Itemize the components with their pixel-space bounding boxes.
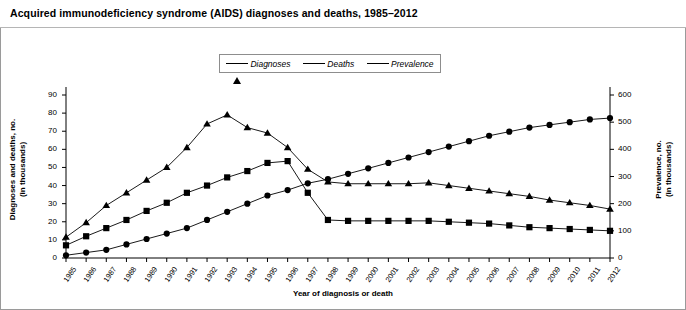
square-marker-icon: [607, 228, 613, 234]
y-axis-right-tick-label: 300: [618, 172, 642, 181]
circle-marker-icon: [164, 230, 170, 236]
y-axis-right-tick-label: 200: [618, 199, 642, 208]
y-axis-left-tick-label: 60: [35, 144, 57, 153]
square-marker-icon: [486, 220, 492, 226]
circle-marker-icon: [103, 247, 109, 253]
y-axis-right-tick-label: 600: [618, 90, 642, 99]
square-marker-icon: [224, 174, 230, 180]
circle-marker-icon: [526, 125, 532, 131]
y-axis-left-tick-label: 20: [35, 217, 57, 226]
triangle-marker-icon: [82, 219, 90, 225]
square-marker-icon: [184, 190, 190, 196]
circle-marker-icon: [365, 165, 371, 171]
square-marker-icon: [305, 190, 311, 196]
circle-marker-icon: [486, 133, 492, 139]
triangle-marker-icon: [364, 180, 372, 186]
y-axis-right-tick-label: 0: [618, 253, 642, 262]
square-marker-icon: [466, 220, 472, 226]
y-axis-left-tick-label: 90: [35, 90, 57, 99]
y-axis-left-tick-label: 10: [35, 235, 57, 244]
square-marker-icon: [385, 218, 391, 224]
triangle-marker-icon: [284, 144, 292, 150]
y-axis-left-tick-label: 40: [35, 181, 57, 190]
y-axis-left-title-line1: Diagnoses and deaths, no.: [8, 110, 18, 230]
triangle-marker-icon: [223, 111, 231, 117]
square-marker-icon: [526, 224, 532, 230]
square-marker-icon: [446, 219, 452, 225]
triangle-marker-icon: [143, 176, 151, 182]
y-axis-right-tick-label: 400: [618, 144, 642, 153]
square-marker-icon: [506, 222, 512, 228]
square-marker-icon: [103, 225, 109, 231]
y-axis-right-title-line1: Prevalence, no.: [654, 110, 664, 230]
square-marker-icon: [365, 218, 371, 224]
square-marker-icon: [204, 182, 210, 188]
y-axis-left-title-line2: (in thousands): [17, 110, 27, 230]
circle-marker-icon: [83, 249, 89, 255]
y-axis-left-tick-label: 70: [35, 126, 57, 135]
circle-marker-icon: [546, 122, 552, 128]
square-marker-icon: [405, 218, 411, 224]
square-marker-icon: [63, 242, 69, 248]
circle-marker-icon: [325, 176, 331, 182]
square-marker-icon: [426, 218, 432, 224]
triangle-marker-icon: [123, 189, 131, 195]
square-marker-icon: [83, 233, 89, 239]
triangle-marker-icon: [62, 233, 70, 239]
square-marker-icon: [123, 217, 129, 223]
circle-marker-icon: [345, 171, 351, 177]
square-marker-icon: [143, 208, 149, 214]
square-marker-icon: [285, 158, 291, 164]
circle-marker-icon: [466, 138, 472, 144]
y-axis-right-tick-label: 100: [618, 226, 642, 235]
y-axis-left-title: Diagnoses and deaths, no. (in thousands): [8, 110, 27, 230]
series-line-prevalence: [66, 118, 610, 255]
circle-marker-icon: [607, 115, 613, 121]
square-marker-icon: [244, 168, 250, 174]
triangle-marker-icon: [385, 180, 393, 186]
circle-marker-icon: [264, 192, 270, 198]
circle-marker-icon: [244, 201, 250, 207]
y-axis-right-title-line2: (in thousands): [663, 110, 673, 230]
series-line-deaths: [66, 161, 610, 245]
circle-marker-icon: [426, 149, 432, 155]
circle-marker-icon: [63, 252, 69, 258]
circle-marker-icon: [446, 144, 452, 150]
circle-marker-icon: [143, 236, 149, 242]
plot-area: Diagnoses and deaths, no. (in thousands)…: [0, 0, 686, 310]
square-marker-icon: [325, 217, 331, 223]
y-axis-right-title: Prevalence, no. (in thousands): [654, 110, 673, 230]
series-prevalence: [63, 115, 613, 258]
square-marker-icon: [345, 218, 351, 224]
triangle-marker-icon: [425, 179, 433, 185]
triangle-marker-icon: [102, 202, 110, 208]
square-marker-icon: [587, 227, 593, 233]
circle-marker-icon: [305, 180, 311, 186]
square-marker-icon: [164, 200, 170, 206]
y-axis-left-tick-label: 80: [35, 108, 57, 117]
y-axis-left-tick-label: 30: [35, 199, 57, 208]
square-marker-icon: [546, 225, 552, 231]
y-axis-left-tick-label: 50: [35, 162, 57, 171]
circle-marker-icon: [285, 187, 291, 193]
triangle-marker-icon: [405, 180, 413, 186]
circle-marker-icon: [567, 119, 573, 125]
series-deaths: [63, 158, 613, 248]
circle-marker-icon: [184, 225, 190, 231]
circle-marker-icon: [506, 129, 512, 135]
square-marker-icon: [264, 160, 270, 166]
square-marker-icon: [567, 226, 573, 232]
triangle-marker-icon: [244, 124, 252, 130]
circle-marker-icon: [587, 116, 593, 122]
y-axis-left-tick-label: 0: [35, 253, 57, 262]
y-axis-right-tick-label: 500: [618, 117, 642, 126]
plot-svg: [0, 0, 686, 310]
circle-marker-icon: [123, 241, 129, 247]
triangle-marker-icon: [203, 120, 211, 126]
circle-marker-icon: [204, 217, 210, 223]
circle-marker-icon: [405, 154, 411, 160]
circle-marker-icon: [385, 160, 391, 166]
chart-figure: Acquired immunodeficiency syndrome (AIDS…: [0, 0, 686, 310]
circle-marker-icon: [224, 209, 230, 215]
